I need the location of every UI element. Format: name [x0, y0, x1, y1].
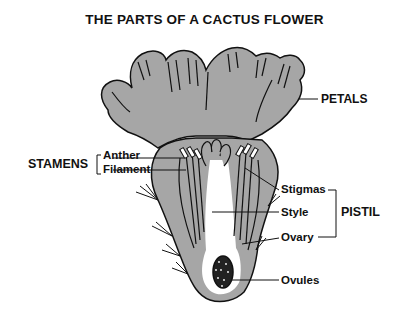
label-anther: Anther — [103, 149, 140, 161]
label-stamens: STAMENS — [28, 158, 88, 171]
label-pistil: PISTIL — [341, 206, 380, 219]
label-ovary: Ovary — [281, 231, 314, 243]
label-ovules: Ovules — [281, 274, 319, 286]
label-style: Style — [281, 206, 309, 218]
stamens-bracket — [97, 155, 101, 174]
pistil-bracket — [318, 190, 336, 237]
label-petals: PETALS — [321, 93, 367, 105]
label-stigmas: Stigmas — [281, 183, 326, 195]
ovules — [213, 256, 233, 288]
label-filament: Filament — [103, 163, 150, 175]
petals-shape — [102, 47, 305, 148]
